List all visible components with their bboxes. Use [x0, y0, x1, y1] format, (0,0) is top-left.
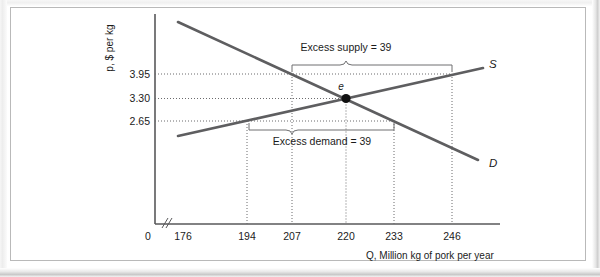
- x-tick-label-207: 207: [283, 230, 301, 242]
- equilibrium-label: e: [338, 81, 344, 92]
- y-tick-label-3-95: 3.95: [130, 68, 151, 80]
- supply-curve: [178, 68, 483, 136]
- excess-demand-label: Excess demand = 39: [273, 135, 372, 147]
- x-axis-title: Q, Million kg of pork per year: [366, 250, 494, 261]
- y-axis-title: p, $ per kg: [104, 24, 115, 71]
- supply-demand-chart: e S D Excess supply = 39 Excess demand =…: [0, 0, 600, 277]
- excess-supply-label: Excess supply = 39: [301, 41, 392, 53]
- y-tick-label-3-30: 3.30: [130, 92, 151, 104]
- excess-supply-brace: [292, 61, 452, 72]
- x-tick-label-194: 194: [238, 230, 256, 242]
- excess-demand-brace: [249, 123, 394, 134]
- x-axis-break-icon: [162, 218, 172, 228]
- equilibrium-point: [341, 94, 350, 103]
- demand-curve-label: D: [489, 157, 497, 169]
- y-tick-label-2-65: 2.65: [130, 115, 151, 127]
- x-tick-label-233: 233: [385, 230, 403, 242]
- supply-curve-label: S: [489, 58, 497, 70]
- x-tick-label-176: 176: [174, 230, 192, 242]
- figure-frame: e S D Excess supply = 39 Excess demand =…: [0, 0, 600, 277]
- x-tick-label-246: 246: [443, 230, 461, 242]
- x-tick-label-220: 220: [337, 230, 355, 242]
- x-origin-label: 0: [145, 230, 151, 242]
